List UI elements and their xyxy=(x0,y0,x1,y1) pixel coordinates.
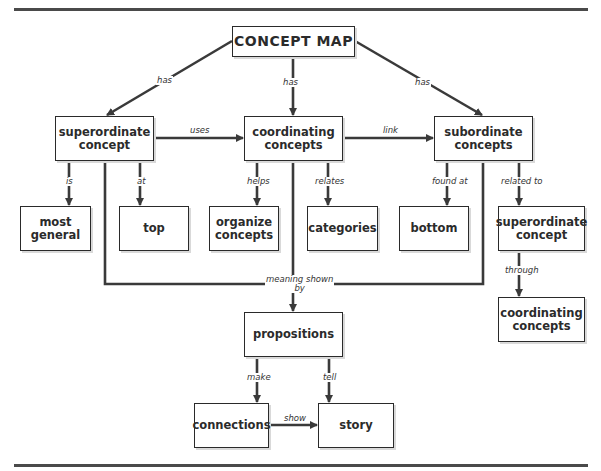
link-label-meaning-shown-by: meaning shown by xyxy=(265,275,334,293)
node-bottom: bottom xyxy=(399,206,469,251)
node-categories: categories xyxy=(307,206,378,251)
link-label-has-right: has xyxy=(414,78,431,87)
node-story: story xyxy=(318,403,394,448)
link-label-make: make xyxy=(246,373,272,382)
node-superordinate-concept: superordinate concept xyxy=(55,116,154,161)
link-label-related-to: related to xyxy=(500,177,544,186)
link-label-found-at: found at xyxy=(431,177,469,186)
link-label-is: is xyxy=(65,177,74,186)
link-label-has-left: has xyxy=(156,76,173,85)
link-label-at: at xyxy=(136,177,147,186)
node-subordinate-concepts: subordinate concepts xyxy=(434,116,533,161)
link-label-link: link xyxy=(382,126,399,135)
node-top: top xyxy=(119,206,189,251)
node-propositions: propositions xyxy=(244,312,343,357)
node-superordinate-concept-right: superordinate concept xyxy=(498,206,585,251)
node-coordinating-concepts-right: coordinating concepts xyxy=(498,297,585,342)
node-concept-map: CONCEPT MAP xyxy=(232,26,355,57)
node-connections: connections xyxy=(194,403,269,448)
link-label-helps: helps xyxy=(246,177,271,186)
node-coordinating-concepts: coordinating concepts xyxy=(244,116,343,161)
link-label-show: show xyxy=(283,414,307,423)
link-label-has-center: has xyxy=(282,78,299,87)
link-label-relates: relates xyxy=(314,177,345,186)
link-label-uses: uses xyxy=(189,126,210,135)
node-most-general: most general xyxy=(20,206,91,251)
link-label-tell: tell xyxy=(322,373,337,382)
link-label-through: through xyxy=(504,266,540,275)
node-organize-concepts: organize concepts xyxy=(209,206,279,251)
